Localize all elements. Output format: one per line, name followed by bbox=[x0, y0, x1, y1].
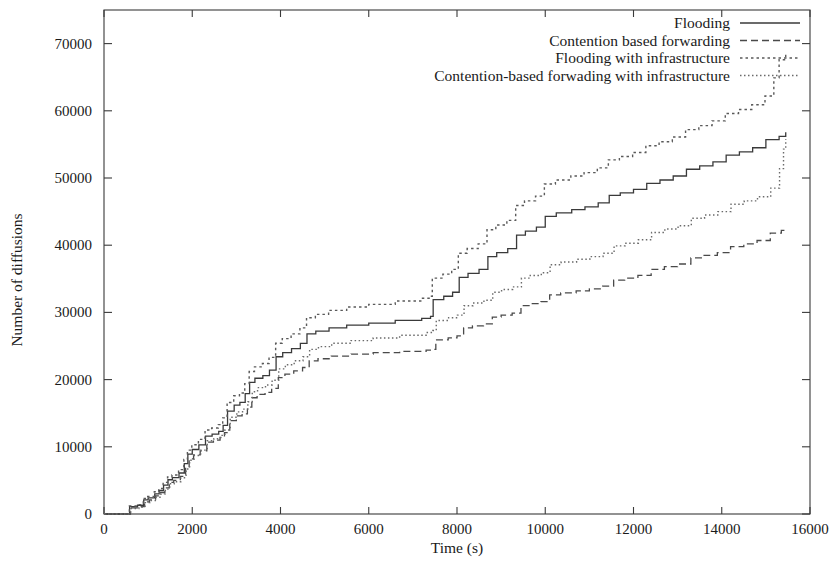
x-tick-label: 8000 bbox=[442, 521, 472, 537]
line-chart: 0200040006000800010000120001400016000 01… bbox=[0, 0, 831, 564]
legend-label: Flooding bbox=[674, 14, 730, 31]
x-tick-label: 16000 bbox=[791, 521, 829, 537]
x-tick-label: 12000 bbox=[615, 521, 653, 537]
legend-label: Contention-based forwading with infrastr… bbox=[434, 67, 730, 84]
x-tick-label: 4000 bbox=[266, 521, 296, 537]
x-tick-label: 6000 bbox=[354, 521, 384, 537]
chart-background bbox=[0, 0, 831, 564]
legend-label: Flooding with infrastructure bbox=[555, 49, 730, 66]
y-tick-label: 0 bbox=[85, 506, 93, 522]
x-axis-title: Time (s) bbox=[431, 539, 483, 557]
x-tick-label: 10000 bbox=[527, 521, 565, 537]
y-tick-label: 20000 bbox=[55, 372, 93, 388]
x-tick-label: 14000 bbox=[703, 521, 741, 537]
chart-figure: 0200040006000800010000120001400016000 01… bbox=[0, 0, 831, 564]
y-tick-label: 60000 bbox=[55, 103, 93, 119]
y-axis-title: Number of diffusions bbox=[8, 213, 25, 346]
y-tick-label: 10000 bbox=[55, 439, 93, 455]
y-tick-label: 30000 bbox=[55, 304, 93, 320]
y-tick-label: 50000 bbox=[55, 170, 93, 186]
y-tick-label: 70000 bbox=[55, 36, 93, 52]
x-tick-label: 2000 bbox=[177, 521, 207, 537]
y-tick-label: 40000 bbox=[55, 237, 93, 253]
x-tick-label: 0 bbox=[100, 521, 108, 537]
legend-label: Contention based forwarding bbox=[549, 32, 730, 49]
